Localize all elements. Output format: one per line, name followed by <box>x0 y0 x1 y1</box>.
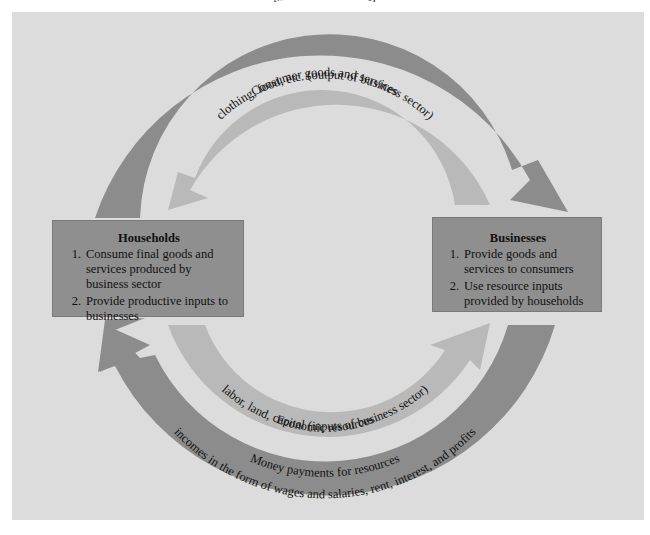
households-item-1: 1. Consume final goods and services prod… <box>63 247 235 292</box>
arrow-consumer-goods-services <box>168 90 490 210</box>
households-box: Households 1. Consume final goods and se… <box>52 220 244 317</box>
households-title: Households <box>63 231 235 246</box>
list-text: Provide productive inputs to businesses <box>86 294 235 324</box>
businesses-box: Businesses 1. Provide goods and services… <box>432 217 602 312</box>
list-number: 1. <box>63 247 86 292</box>
businesses-list: 1. Provide goods and services to consume… <box>441 247 595 309</box>
top-outer-label-line1: Money payments for <box>271 0 380 5</box>
list-text: Consume final goods and services produce… <box>86 247 235 292</box>
list-text: Provide goods and services to consumers <box>464 247 595 277</box>
businesses-item-1: 1. Provide goods and services to consume… <box>441 247 595 277</box>
households-list: 1. Consume final goods and services prod… <box>63 247 235 324</box>
businesses-title: Businesses <box>441 231 595 246</box>
top-outer-label-line2: consumer goods and services <box>250 0 401 1</box>
list-number: 2. <box>441 279 464 309</box>
list-number: 2. <box>63 294 86 324</box>
arrow-money-payments-consumer-goods <box>95 34 568 218</box>
households-item-2: 2. Provide productive inputs to business… <box>63 294 235 324</box>
businesses-item-2: 2. Use resource inputs provided by house… <box>441 279 595 309</box>
list-text: Use resource inputs provided by househol… <box>464 279 595 309</box>
list-number: 1. <box>441 247 464 277</box>
